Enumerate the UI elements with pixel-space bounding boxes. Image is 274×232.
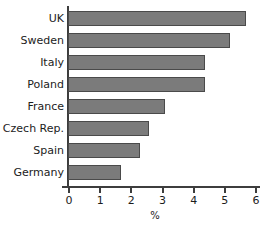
x-axis-tick xyxy=(193,188,195,193)
x-axis-tick-label: 0 xyxy=(59,194,79,207)
x-axis-tick xyxy=(130,188,132,193)
bar xyxy=(68,77,205,92)
x-axis-tick xyxy=(162,188,164,193)
x-axis-title-text: % xyxy=(150,210,160,221)
x-axis-tick-label: 6 xyxy=(246,194,266,207)
bar xyxy=(68,33,230,48)
bar-row xyxy=(68,77,255,92)
category-axis-labels: UKSwedenItalyPolandFranceCzech Rep.Spain… xyxy=(0,8,64,183)
category-label: Poland xyxy=(0,77,64,92)
bar-row xyxy=(68,143,255,158)
bar xyxy=(68,143,140,158)
x-axis-tick xyxy=(224,188,226,193)
x-axis-tick-label: 4 xyxy=(184,194,204,207)
bar xyxy=(68,55,205,70)
x-axis-tick xyxy=(68,188,70,193)
category-label: Czech Rep. xyxy=(0,121,64,136)
category-label: Spain xyxy=(0,143,64,158)
category-label: Italy xyxy=(0,55,64,70)
bar-row xyxy=(68,55,255,70)
x-axis-tick xyxy=(255,188,257,193)
bar xyxy=(68,121,149,136)
bar-row xyxy=(68,121,255,136)
category-label: UK xyxy=(0,11,64,26)
bar-row xyxy=(68,11,255,26)
category-label: Sweden xyxy=(0,33,64,48)
x-axis-tick-label: 3 xyxy=(153,194,173,207)
bar xyxy=(68,99,165,114)
bar-row xyxy=(68,99,255,114)
x-axis-tick-label: 2 xyxy=(121,194,141,207)
x-axis-title: % xyxy=(0,210,274,221)
bar-row xyxy=(68,165,255,180)
bar xyxy=(68,165,121,180)
bar-row xyxy=(68,33,255,48)
x-axis-tick-label: 5 xyxy=(215,194,235,207)
x-axis-tick xyxy=(99,188,101,193)
bar-chart: UKSwedenItalyPolandFranceCzech Rep.Spain… xyxy=(0,0,274,232)
bar xyxy=(68,11,246,26)
category-label: Germany xyxy=(0,165,64,180)
plot-area xyxy=(68,8,255,183)
x-axis-tick-label: 1 xyxy=(90,194,110,207)
category-label: France xyxy=(0,99,64,114)
